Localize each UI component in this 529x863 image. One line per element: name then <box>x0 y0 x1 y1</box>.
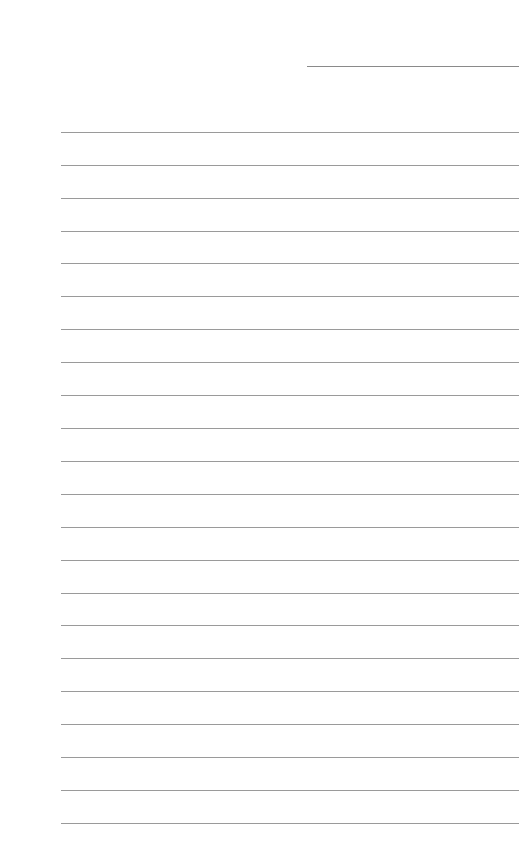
header-date-line <box>307 66 519 67</box>
ruled-line <box>61 296 519 297</box>
ruled-line <box>61 329 519 330</box>
ruled-line <box>61 658 519 659</box>
ruled-line <box>61 165 519 166</box>
ruled-line <box>61 494 519 495</box>
ruled-line <box>61 691 519 692</box>
ruled-line <box>61 724 519 725</box>
ruled-line <box>61 428 519 429</box>
ruled-line <box>61 625 519 626</box>
ruled-line <box>61 757 519 758</box>
ruled-line <box>61 231 519 232</box>
ruled-line <box>61 263 519 264</box>
ruled-line <box>61 560 519 561</box>
ruled-line <box>61 823 519 824</box>
ruled-line <box>61 527 519 528</box>
ruled-line <box>61 593 519 594</box>
ruled-line <box>61 132 519 133</box>
lined-paper-page <box>0 0 529 863</box>
ruled-line <box>61 198 519 199</box>
ruled-line <box>61 362 519 363</box>
ruled-line <box>61 395 519 396</box>
ruled-line <box>61 790 519 791</box>
ruled-line <box>61 461 519 462</box>
